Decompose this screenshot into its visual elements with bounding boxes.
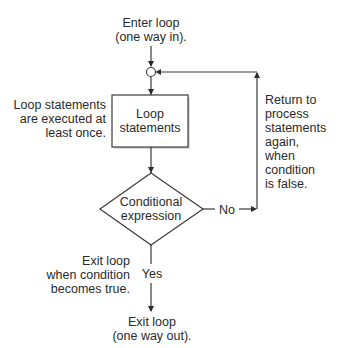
svg-text:condition: condition <box>265 163 315 177</box>
loop-flowchart: Enter loop (one way in). Loop statements… <box>0 0 340 348</box>
svg-text:(one way in).: (one way in). <box>115 30 187 44</box>
svg-text:statements: statements <box>119 121 180 135</box>
junction-node <box>147 68 156 77</box>
svg-text:when: when <box>264 149 295 163</box>
svg-text:Loop: Loop <box>136 107 164 121</box>
box-to-decision-arrow <box>148 147 154 173</box>
junction-to-box-arrow <box>148 77 154 95</box>
svg-text:Enter loop: Enter loop <box>123 16 180 30</box>
no-label: No <box>219 203 235 217</box>
return-note: Return to process statements again, when… <box>264 93 326 191</box>
yes-branch: Yes <box>142 245 162 312</box>
svg-text:(one way out).: (one way out). <box>112 329 191 343</box>
left-note: Loop statements are executed at least on… <box>14 98 107 140</box>
exit-label: Exit loop (one way out). <box>112 315 191 343</box>
entry-arrow <box>148 46 154 67</box>
svg-text:when condition: when condition <box>46 268 130 282</box>
exit-note: Exit loop when condition becomes true. <box>46 254 130 296</box>
svg-text:expression: expression <box>121 209 181 223</box>
svg-text:becomes true.: becomes true. <box>51 282 130 296</box>
svg-text:Conditional: Conditional <box>120 195 183 209</box>
svg-text:are executed at: are executed at <box>20 112 107 126</box>
svg-text:process: process <box>265 107 309 121</box>
svg-text:least once.: least once. <box>46 126 106 140</box>
yes-label: Yes <box>142 267 162 281</box>
entry-label: Enter loop (one way in). <box>115 16 187 44</box>
svg-text:Exit loop: Exit loop <box>82 254 130 268</box>
svg-text:Return to: Return to <box>265 93 316 107</box>
no-branch: No <box>203 203 257 217</box>
svg-text:is false.: is false. <box>265 177 307 191</box>
decision-diamond: Conditional expression <box>100 173 203 245</box>
svg-text:Loop statements: Loop statements <box>14 98 106 112</box>
svg-text:again,: again, <box>265 135 299 149</box>
process-box: Loop statements <box>112 95 190 149</box>
svg-text:statements: statements <box>265 121 326 135</box>
svg-text:Exit loop: Exit loop <box>128 315 176 329</box>
